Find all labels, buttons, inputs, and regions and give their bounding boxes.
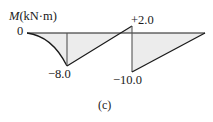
- axis-label-units: (kN·m): [19, 9, 57, 23]
- zero-value-label: 0: [17, 25, 23, 38]
- peak-label: +2.0: [131, 14, 154, 27]
- moment-diagram-figure: M(kN·m) 0 −8.0 +2.0 −10.0 (c): [0, 0, 213, 122]
- second-minimum-label: −10.0: [113, 74, 142, 87]
- axis-label: M(kN·m): [9, 10, 57, 23]
- axis-label-symbol: M: [9, 9, 19, 23]
- part-caption: (c): [98, 99, 111, 111]
- first-minimum-label: −8.0: [48, 68, 71, 81]
- shaded-region-first-lobe: [27, 33, 67, 66]
